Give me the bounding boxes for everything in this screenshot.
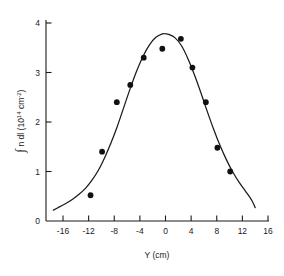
data-point-marker — [127, 82, 133, 88]
y-tick-label: 3 — [35, 68, 40, 78]
data-point-marker — [88, 192, 94, 198]
y-tick-label: 0 — [35, 216, 40, 226]
x-tick-label: -8 — [110, 226, 118, 236]
x-tick-label: 16 — [263, 226, 273, 236]
data-point-marker — [141, 55, 147, 61]
data-point-marker — [203, 99, 209, 105]
x-tick-label: -4 — [136, 226, 144, 236]
y-tick-label: 2 — [35, 117, 40, 127]
figure-container: -16-12-8-40481216 01234 Y (cm) ∫ n dl (1… — [0, 0, 284, 276]
y-tick-label: 1 — [35, 167, 40, 177]
x-tick-label: 8 — [214, 226, 219, 236]
data-point-marker — [214, 145, 220, 151]
data-point-marker — [178, 36, 184, 42]
x-tick-label: 0 — [163, 226, 168, 236]
x-tick-label: 4 — [189, 226, 194, 236]
data-point-marker — [159, 46, 165, 52]
data-point-marker — [227, 169, 233, 175]
y-axis-title: ∫ n dl (1014 cm-2) — [12, 89, 28, 153]
data-point-marker — [99, 149, 105, 155]
x-axis-title: Y (cm) — [145, 250, 170, 260]
data-points — [88, 36, 233, 198]
y-tick-label: 4 — [35, 18, 40, 28]
fitted-curve — [53, 34, 255, 210]
x-axis-ticks: -16-12-8-40481216 — [57, 216, 273, 237]
y-axis-ticks: 01234 — [35, 18, 51, 226]
data-point-marker — [114, 99, 120, 105]
x-tick-label: 12 — [238, 226, 248, 236]
x-tick-label: -12 — [82, 226, 95, 236]
scatter-plot: -16-12-8-40481216 01234 Y (cm) ∫ n dl (1… — [0, 0, 284, 276]
y-axis-title-group: ∫ n dl (1014 cm-2) — [12, 89, 28, 153]
data-point-marker — [190, 65, 196, 71]
x-tick-label: -16 — [57, 226, 70, 236]
